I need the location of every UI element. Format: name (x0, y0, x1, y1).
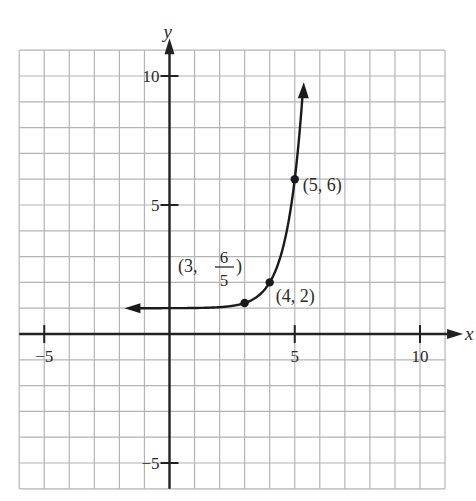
fraction-numerator: 6 (220, 248, 229, 267)
y-tick-label: 10 (143, 67, 160, 86)
curve-left-arrow-icon (124, 303, 140, 313)
fraction-denominator: 5 (220, 271, 229, 290)
point-label: (5, 6) (303, 175, 342, 196)
x-axis-label: x (464, 323, 474, 344)
x-tick-label: −5 (35, 347, 53, 366)
x-tick-label: 10 (412, 347, 429, 366)
curve-top-arrow-icon (298, 82, 309, 98)
axis-ticks (44, 76, 420, 463)
grid-lines (19, 50, 445, 489)
data-point (291, 175, 299, 183)
x-tick-label: 5 (291, 347, 300, 366)
data-point (240, 299, 248, 307)
x-axis-arrow-icon (447, 329, 463, 339)
labels: xy−5510−5510(5, 6)(4, 2)(3, 65) (35, 21, 474, 473)
y-tick-label: 5 (151, 196, 160, 215)
point-label-fraction: (3, 65) (178, 248, 242, 290)
point-label: (4, 2) (276, 286, 315, 307)
function-graph: xy−5510−5510(5, 6)(4, 2)(3, 65) (0, 0, 476, 501)
y-axis-label: y (162, 21, 173, 42)
data-point (266, 278, 274, 286)
point-label-suffix: ) (236, 256, 242, 277)
y-tick-label: −5 (141, 454, 159, 473)
curve-path (134, 92, 302, 308)
point-label-prefix: (3, (178, 256, 198, 277)
